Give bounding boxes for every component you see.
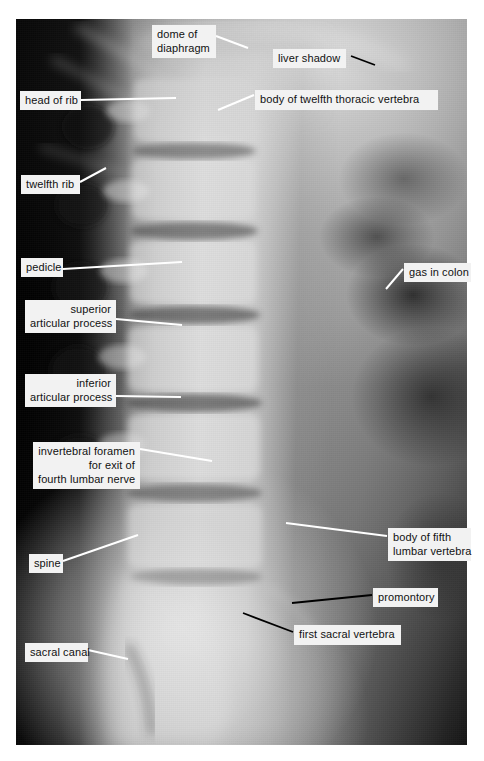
label-dome-of-diaphragm: dome of diaphragm [152, 25, 216, 58]
label-pedicle: pedicle [21, 258, 63, 277]
label-superior-articular-process: superior articular process [25, 300, 116, 333]
label-twelfth-rib: twelfth rib [21, 175, 80, 194]
label-invertebral-foramen: invertebral foramen for exit of fourth l… [33, 442, 140, 489]
label-first-sacral-vertebra: first sacral vertebra [294, 625, 401, 645]
label-sacral-canal: sacral canal [25, 643, 88, 662]
label-head-of-rib: head of rib [20, 91, 81, 110]
label-gas-in-colon: gas in colon [404, 263, 471, 282]
label-body-of-fifth-lumbar-vertebra: body of fifth lumbar vertebra [388, 528, 471, 561]
annotated-radiograph-figure: dome of diaphragmliver shadowhead of rib… [0, 0, 484, 761]
label-liver-shadow: liver shadow [273, 49, 346, 68]
label-body-of-twelfth-thoracic-vertebra: body of twelfth thoracic vertebra [255, 90, 438, 110]
label-inferior-articular-process: inferior articular process [25, 374, 116, 407]
label-promontory: promontory [373, 588, 438, 607]
label-spine: spine [29, 554, 63, 573]
